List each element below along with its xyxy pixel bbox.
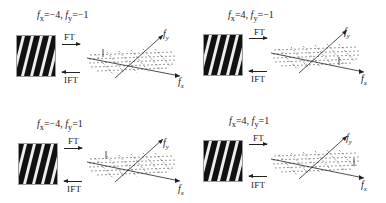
axis-fy-label: fy — [163, 137, 169, 151]
axis-fx-label: fx — [178, 76, 184, 90]
ift-label: IFT — [67, 184, 81, 194]
ft-arrow-icon — [64, 148, 82, 149]
axis-fy-label: fy — [163, 28, 169, 42]
ft-arrow-icon — [249, 38, 267, 39]
axis-fx-label: fx — [178, 183, 184, 197]
axis-fx-label: fx — [361, 179, 367, 193]
panel-bottom-right: fx=4, fy=1 FT IFT fy fx — [193, 101, 386, 202]
frequency-plane-icon — [85, 139, 185, 199]
ift-label: IFT — [251, 180, 265, 190]
ft-arrow-icon — [249, 144, 267, 145]
ft-label: FT — [68, 136, 79, 146]
frequency-plane-icon — [85, 30, 185, 90]
spatial-stripe-pattern — [16, 35, 56, 77]
frequency-plane-icon — [269, 30, 369, 90]
frequency-plane-icon — [269, 136, 369, 196]
panel-title: fx=4, fy=1 — [229, 115, 269, 129]
spatial-stripe-pattern — [203, 140, 243, 182]
axis-fy-label: fy — [344, 26, 350, 40]
ift-arrow-icon — [249, 176, 267, 177]
panel-title: fx=−4, fy=−1 — [37, 9, 88, 23]
panel-top-right: fx=4, fy=−1 FT IFT fy fx — [193, 0, 386, 101]
panel-title: fx=−4, fy=1 — [37, 118, 83, 132]
axis-fx-label: fx — [361, 73, 367, 87]
spatial-stripe-pattern — [18, 143, 58, 185]
panel-top-left: fx=−4, fy=−1 FT IFT fy fx — [0, 0, 193, 101]
axis-fy-label: fy — [346, 132, 352, 146]
panel-bottom-left: fx=−4, fy=1 FT IFT fy fx — [0, 101, 193, 202]
ift-label: IFT — [251, 74, 265, 84]
ift-arrow-icon — [249, 71, 267, 72]
spatial-stripe-pattern — [203, 34, 243, 76]
panel-title: fx=4, fy=−1 — [228, 9, 274, 23]
ift-arrow-icon — [62, 72, 80, 73]
ft-arrow-icon — [62, 44, 80, 45]
ft-label: FT — [64, 32, 75, 42]
ift-arrow-icon — [64, 181, 82, 182]
ift-label: IFT — [64, 75, 78, 85]
